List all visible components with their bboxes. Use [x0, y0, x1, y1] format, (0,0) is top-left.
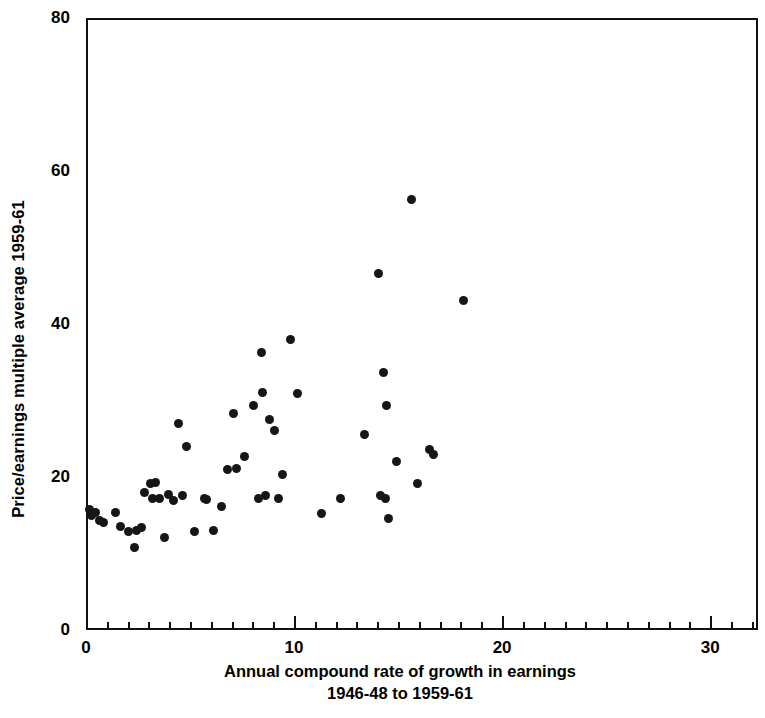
- data-point: [360, 430, 369, 439]
- x-axis-tick-major: [502, 616, 504, 630]
- x-axis-tick-label: 10: [264, 638, 324, 658]
- x-axis-tick-label: 30: [680, 638, 740, 658]
- data-point: [459, 296, 468, 305]
- x-axis-title-line-2: 1946-48 to 1959-61: [85, 682, 715, 704]
- x-axis-tick-minor: [148, 622, 150, 630]
- data-point: [160, 533, 169, 542]
- x-axis-tick-minor: [669, 622, 671, 630]
- data-point: [258, 388, 267, 397]
- data-point: [392, 457, 401, 466]
- y-axis-tick-label: 60: [18, 161, 70, 181]
- x-axis-tick-minor: [252, 622, 254, 630]
- data-point: [407, 195, 416, 204]
- data-point: [232, 464, 241, 473]
- data-point: [429, 450, 438, 459]
- x-axis-title: Annual compound rate of growth in earnin…: [85, 660, 715, 705]
- data-point: [293, 389, 302, 398]
- x-axis-tick-minor: [190, 622, 192, 630]
- data-point: [209, 526, 218, 535]
- data-point: [99, 518, 108, 527]
- x-axis-tick-minor: [606, 622, 608, 630]
- x-axis-tick-minor: [752, 622, 754, 630]
- x-axis-tick-minor: [169, 622, 171, 630]
- x-axis-tick-minor: [627, 622, 629, 630]
- x-axis-tick-minor: [377, 622, 379, 630]
- x-axis-tick-minor: [523, 622, 525, 630]
- x-axis-tick-minor: [107, 622, 109, 630]
- y-axis-tick-label: 80: [18, 8, 70, 28]
- data-point: [413, 479, 422, 488]
- y-axis-tick-label: 20: [18, 467, 70, 487]
- scatter-plot-figure: Price/earnings multiple average 1959-61 …: [0, 0, 765, 718]
- data-point: [336, 494, 345, 503]
- x-axis-tick-minor: [440, 622, 442, 630]
- data-point: [384, 514, 393, 523]
- data-point: [169, 496, 178, 505]
- data-point: [174, 419, 183, 428]
- x-axis-tick-minor: [585, 622, 587, 630]
- x-axis-tick-minor: [336, 622, 338, 630]
- x-axis-tick-minor: [544, 622, 546, 630]
- data-point: [202, 495, 211, 504]
- data-point: [382, 401, 391, 410]
- data-point: [274, 494, 283, 503]
- plot-area: [86, 18, 758, 630]
- data-point: [265, 415, 274, 424]
- data-point: [249, 401, 258, 410]
- x-axis-tick-minor: [419, 622, 421, 630]
- data-points-layer: [88, 20, 756, 628]
- data-point: [178, 491, 187, 500]
- data-point: [286, 335, 295, 344]
- data-point: [379, 368, 388, 377]
- x-axis-tick-label: 20: [472, 638, 532, 658]
- x-axis-tick-minor: [481, 622, 483, 630]
- x-axis-tick-minor: [315, 622, 317, 630]
- x-axis-title-line-1: Annual compound rate of growth in earnin…: [85, 660, 715, 682]
- x-axis-tick-minor: [211, 622, 213, 630]
- data-point: [229, 409, 238, 418]
- x-axis-tick-minor: [398, 622, 400, 630]
- x-axis-tick-minor: [128, 622, 130, 630]
- data-point: [151, 478, 160, 487]
- data-point: [223, 465, 232, 474]
- x-axis-tick-major: [86, 616, 88, 630]
- x-axis-tick-major: [710, 616, 712, 630]
- data-point: [381, 494, 390, 503]
- data-point: [257, 348, 266, 357]
- data-point: [111, 508, 120, 517]
- data-point: [137, 523, 146, 532]
- data-point: [374, 269, 383, 278]
- x-axis-tick-minor: [731, 622, 733, 630]
- x-axis-tick-minor: [689, 622, 691, 630]
- x-axis-tick-minor: [356, 622, 358, 630]
- x-axis-tick-minor: [460, 622, 462, 630]
- data-point: [130, 543, 139, 552]
- data-point: [261, 491, 270, 500]
- data-point: [278, 470, 287, 479]
- data-point: [155, 494, 164, 503]
- data-point: [317, 509, 326, 518]
- data-point: [270, 426, 279, 435]
- x-axis-tick-minor: [648, 622, 650, 630]
- y-axis-tick-label: 40: [18, 314, 70, 334]
- data-point: [240, 452, 249, 461]
- data-point: [217, 502, 226, 511]
- x-axis-tick-major: [294, 616, 296, 630]
- data-point: [190, 527, 199, 536]
- x-axis-tick-label: 0: [56, 638, 116, 658]
- x-axis-tick-minor: [565, 622, 567, 630]
- data-point: [182, 442, 191, 451]
- x-axis-tick-minor: [273, 622, 275, 630]
- y-axis-title: Price/earnings multiple average 1959-61: [0, 0, 30, 718]
- y-axis-tick-label: 0: [18, 620, 70, 640]
- x-axis-tick-minor: [232, 622, 234, 630]
